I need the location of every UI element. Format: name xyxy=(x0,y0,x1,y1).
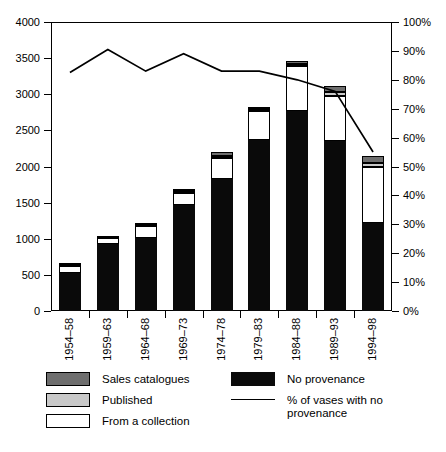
y2-tick xyxy=(392,282,399,283)
y2-tick xyxy=(392,167,399,168)
y2-tick xyxy=(392,109,399,110)
x-tick-label: 1969–73 xyxy=(178,318,189,361)
y2-tick-label: 60% xyxy=(403,132,425,143)
y-tick-label: 0 xyxy=(34,306,40,317)
y2-tick-label: 100% xyxy=(403,17,431,28)
x-tick xyxy=(89,311,90,318)
legend-column-left: Sales cataloguesPublishedFrom a collecti… xyxy=(46,372,231,435)
legend-item: % of vases with no provenance xyxy=(231,393,426,420)
y-tick-label: 3000 xyxy=(16,89,40,100)
x-tick xyxy=(316,311,317,318)
y2-tick xyxy=(392,311,399,312)
legend-item: No provenance xyxy=(231,372,426,386)
x-tick-label: 1989–93 xyxy=(329,318,340,361)
x-tick-label: 1964–68 xyxy=(140,318,151,361)
y2-tick-label: 40% xyxy=(403,190,425,201)
y2-tick-label: 20% xyxy=(403,248,425,259)
y2-tick xyxy=(392,138,399,139)
legend-swatch-line xyxy=(231,393,275,407)
y-tick-label: 500 xyxy=(22,269,40,280)
x-tick-label: 1959–63 xyxy=(102,318,113,361)
x-tick xyxy=(278,311,279,318)
legend-swatch-white xyxy=(46,414,90,428)
y-tick xyxy=(44,58,51,59)
y-tick xyxy=(44,22,51,23)
legend-item: Sales catalogues xyxy=(46,372,231,386)
y2-tick xyxy=(392,51,399,52)
y-tick xyxy=(44,167,51,168)
legend-label: No provenance xyxy=(287,372,365,386)
y-tick-label: 2000 xyxy=(16,161,40,172)
legend-item: Published xyxy=(46,393,231,407)
legend-swatch-black xyxy=(231,372,275,386)
y-tick-label: 1500 xyxy=(16,197,40,208)
y2-tick-label: 80% xyxy=(403,74,425,85)
legend-label: From a collection xyxy=(102,414,190,428)
y-tick xyxy=(44,239,51,240)
legend-label: Sales catalogues xyxy=(102,372,190,386)
x-tick-label: 1979–83 xyxy=(253,318,264,361)
y2-tick xyxy=(392,253,399,254)
x-tick-label: 1974–78 xyxy=(216,318,227,361)
y-tick xyxy=(44,94,51,95)
x-tick-label: 1984–88 xyxy=(291,318,302,361)
y2-tick xyxy=(392,224,399,225)
plot-area: 05001000150020002500300035004000 0%10%20… xyxy=(51,22,392,311)
x-tick-label: 1954–58 xyxy=(64,318,75,361)
y2-tick-label: 0% xyxy=(403,306,419,317)
x-tick xyxy=(354,311,355,318)
y2-tick-label: 10% xyxy=(403,277,425,288)
y-tick-label: 1000 xyxy=(16,233,40,244)
x-tick xyxy=(240,311,241,318)
legend-label: Published xyxy=(102,393,153,407)
chart-figure: 05001000150020002500300035004000 0%10%20… xyxy=(0,0,446,452)
y2-tick xyxy=(392,80,399,81)
y-tick-label: 4000 xyxy=(16,17,40,28)
y-tick xyxy=(44,311,51,312)
y2-tick xyxy=(392,22,399,23)
legend-column-right: No provenance% of vases with no provenan… xyxy=(231,372,426,427)
y2-tick-label: 30% xyxy=(403,219,425,230)
x-tick xyxy=(165,311,166,318)
legend-label: % of vases with no provenance xyxy=(287,393,407,420)
percentage-line xyxy=(51,22,392,311)
y2-tick xyxy=(392,195,399,196)
legend-swatch-dark xyxy=(46,372,90,386)
y2-tick-label: 50% xyxy=(403,161,425,172)
legend-item: From a collection xyxy=(46,414,231,428)
y-tick-label: 3500 xyxy=(16,53,40,64)
y2-tick-label: 90% xyxy=(403,45,425,56)
y-tick-label: 2500 xyxy=(16,125,40,136)
y-tick xyxy=(44,130,51,131)
legend-swatch-light xyxy=(46,393,90,407)
y2-tick-label: 70% xyxy=(403,103,425,114)
x-tick xyxy=(203,311,204,318)
x-tick xyxy=(127,311,128,318)
y-tick xyxy=(44,203,51,204)
x-tick-label: 1994–98 xyxy=(367,318,378,361)
y-tick xyxy=(44,275,51,276)
